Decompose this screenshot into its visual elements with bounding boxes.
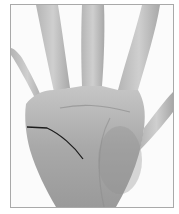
ring-finger xyxy=(36,5,70,92)
index-finger xyxy=(118,5,160,90)
middle-finger xyxy=(81,5,104,86)
palm-image xyxy=(0,0,179,214)
thumb xyxy=(140,92,173,150)
hand xyxy=(11,5,173,207)
